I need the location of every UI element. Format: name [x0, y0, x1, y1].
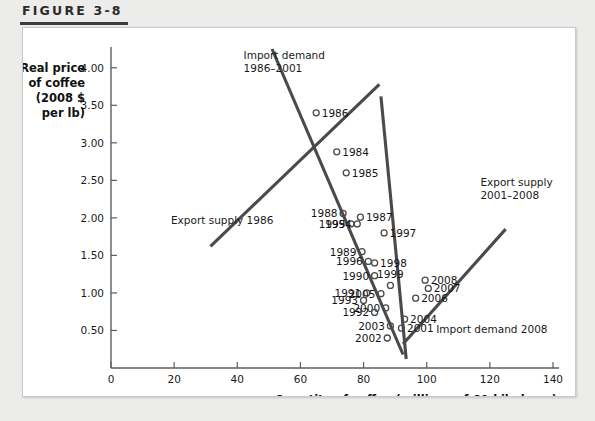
- x-tick-label: 0: [108, 373, 115, 385]
- x-tick-label: 100: [417, 373, 437, 385]
- point-label-1985: 1985: [352, 167, 379, 179]
- data-point-1984: 1984: [334, 146, 370, 158]
- point-marker-1998: [372, 260, 378, 266]
- import-demand-1986-2001-label: Import demand1986–2001: [244, 49, 325, 74]
- point-label-1986: 1986: [322, 107, 349, 119]
- y-tick-label: 3.00: [81, 137, 104, 149]
- y-tick-label: 1.00: [81, 287, 104, 299]
- x-tick-label: 60: [294, 373, 307, 385]
- point-label-2001: 2001: [407, 322, 434, 334]
- export-supply-1986-label: Export supply 1986: [171, 214, 274, 226]
- data-point-1986: 1986: [313, 107, 349, 119]
- point-marker-1987: [357, 214, 363, 220]
- data-point-2006: 2006: [413, 292, 449, 304]
- y-tick-label: 2.00: [81, 212, 104, 224]
- point-marker-2007: [425, 285, 431, 291]
- point-marker-2002: [384, 335, 390, 341]
- point-marker-1996: [365, 258, 371, 264]
- y-axis-title: Real priceof coffee(2008 $per lb): [23, 61, 85, 120]
- coffee-supply-demand-scatter-chart: 020406080100120140 0.501.001.502.002.503…: [23, 28, 575, 396]
- figure-number-label: FIGURE 3-8: [22, 4, 123, 18]
- data-point-1985: 1985: [343, 167, 378, 179]
- data-point-1987: 1987: [357, 211, 392, 223]
- x-tick-label: 140: [543, 373, 563, 385]
- data-point-2002: 2002: [355, 332, 390, 344]
- point-marker-1984: [334, 149, 340, 155]
- point-label-1996: 1996: [336, 255, 363, 267]
- x-tick-label: 120: [480, 373, 500, 385]
- x-tick-label: 20: [167, 373, 180, 385]
- x-tick-label: 80: [357, 373, 370, 385]
- point-label-2006: 2006: [421, 292, 448, 304]
- point-marker-1994: [354, 221, 360, 227]
- y-tick-label: 2.50: [81, 174, 104, 186]
- point-label-1990: 1990: [342, 270, 369, 282]
- point-marker-2005: [378, 291, 384, 297]
- point-marker-1999: [387, 282, 393, 288]
- point-label-1998: 1998: [380, 257, 407, 269]
- x-tick-label: 40: [231, 373, 244, 385]
- y-tick-label: 1.50: [81, 249, 104, 261]
- point-label-2003: 2003: [358, 320, 385, 332]
- point-marker-1985: [343, 170, 349, 176]
- point-label-1999: 1999: [377, 268, 404, 280]
- data-point-1998: 1998: [372, 257, 407, 269]
- data-point-1994: 1994: [325, 218, 360, 230]
- point-label-1994: 1994: [325, 218, 352, 230]
- figure-label-underline: [20, 22, 128, 25]
- point-label-1992: 1992: [342, 306, 369, 318]
- export-supply-2001-2008-label: Export supply2001–2008: [480, 176, 552, 201]
- point-label-1984: 1984: [342, 146, 369, 158]
- point-marker-1997: [381, 230, 387, 236]
- figure-container: FIGURE 3-8 020406080100120140 0.501.001.…: [0, 0, 595, 421]
- data-point-1997: 1997: [381, 227, 416, 239]
- point-marker-2006: [413, 295, 419, 301]
- y-tick-label: 0.50: [81, 324, 104, 336]
- import-demand-2008-label: Import demand 2008: [436, 323, 547, 335]
- point-marker-2008: [422, 277, 428, 283]
- point-marker-1986: [313, 110, 319, 116]
- point-label-2002: 2002: [355, 332, 382, 344]
- x-axis-title: Quantity of coffee (millions of 60-kilo …: [275, 393, 557, 396]
- point-label-1987: 1987: [366, 211, 393, 223]
- chart-plate: 020406080100120140 0.501.001.502.002.503…: [22, 27, 576, 397]
- point-label-1997: 1997: [390, 227, 417, 239]
- x-axis-ticks: 020406080100120140: [108, 362, 563, 385]
